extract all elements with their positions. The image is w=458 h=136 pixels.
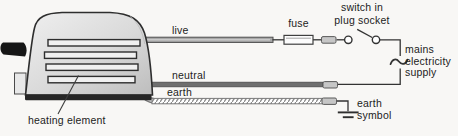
heating-element-label: heating element bbox=[28, 115, 106, 127]
mains-supply-label: mains electricity supply bbox=[405, 44, 451, 79]
fuse-label: fuse bbox=[283, 18, 314, 30]
toaster-base bbox=[25, 95, 152, 101]
toaster-wiring-diagram: live neutral earth fuse switch in plug s… bbox=[0, 0, 458, 136]
live-label: live bbox=[172, 25, 189, 37]
toaster-lever bbox=[0, 43, 26, 57]
heating-element-bar bbox=[45, 52, 137, 58]
toaster-side-button bbox=[15, 73, 27, 94]
heating-element-bar bbox=[48, 40, 140, 46]
neutral-label: neutral bbox=[172, 70, 206, 82]
wire-connector bbox=[323, 82, 338, 88]
toaster-icon bbox=[0, 13, 152, 115]
heating-element-bar bbox=[46, 64, 138, 70]
heating-element-bar bbox=[48, 76, 135, 82]
wire-connector bbox=[322, 37, 337, 44]
earth-label: earth bbox=[167, 87, 192, 99]
switch-symbol bbox=[345, 29, 380, 43]
switch-label: switch in plug socket bbox=[321, 1, 403, 27]
fuse-symbol bbox=[284, 35, 313, 44]
wire-connectors bbox=[322, 37, 338, 105]
wire-connector bbox=[322, 98, 337, 104]
live-wire bbox=[143, 37, 273, 42]
earth-ground-icon bbox=[338, 112, 359, 117]
earth-symbol-label: earth symbol bbox=[357, 98, 391, 121]
